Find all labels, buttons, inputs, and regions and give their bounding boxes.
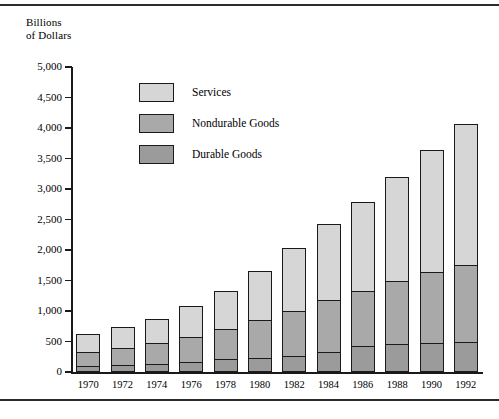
bar-stack[interactable]: [317, 224, 341, 372]
bar-stack[interactable]: [76, 334, 100, 372]
bar-stack[interactable]: [454, 124, 478, 372]
bar-segment-durable-goods[interactable]: [77, 366, 99, 371]
bar-stack[interactable]: [248, 271, 272, 372]
bar-segment-services[interactable]: [386, 178, 408, 281]
bar-segment-durable-goods[interactable]: [386, 344, 408, 371]
bar-segment-services[interactable]: [421, 151, 443, 272]
bar-segment-services[interactable]: [455, 125, 477, 265]
bar-stack[interactable]: [179, 306, 203, 372]
legend-label-durable: Durable Goods: [192, 148, 262, 160]
bar-segment-nondurable-goods[interactable]: [352, 291, 374, 346]
bar-segment-services[interactable]: [112, 328, 134, 347]
bar-segment-nondurable-goods[interactable]: [283, 311, 305, 357]
legend-swatch-nondurable: [139, 114, 174, 133]
legend-label-services: Services: [192, 86, 231, 98]
y-axis-tick-label: 2,500: [4, 213, 62, 225]
bar-segment-services[interactable]: [283, 249, 305, 311]
y-axis-tick-label: 4,500: [4, 91, 62, 103]
y-axis-tick-label: 5,000: [4, 60, 62, 72]
chart-legend: ServicesNondurable GoodsDurable Goods: [139, 79, 279, 172]
bar-segment-services[interactable]: [249, 272, 271, 319]
y-axis-tick-label: 3,000: [4, 182, 62, 194]
bar-segment-durable-goods[interactable]: [455, 342, 477, 371]
bar-segment-nondurable-goods[interactable]: [386, 281, 408, 345]
bar-segment-durable-goods[interactable]: [421, 343, 443, 371]
bar-stack[interactable]: [214, 291, 238, 372]
legend-swatch-services: [139, 83, 174, 102]
bar-segment-durable-goods[interactable]: [146, 364, 168, 371]
bar-segment-nondurable-goods[interactable]: [249, 320, 271, 359]
chart-plot-area: 5,0004,5004,0003,5003,0002,5002,0001,500…: [0, 0, 499, 419]
bar-segment-services[interactable]: [318, 225, 340, 300]
bar-segment-nondurable-goods[interactable]: [146, 343, 168, 364]
bar-segment-nondurable-goods[interactable]: [180, 337, 202, 362]
bar-segment-nondurable-goods[interactable]: [215, 329, 237, 359]
bar-stack[interactable]: [111, 327, 135, 372]
bar-segment-durable-goods[interactable]: [249, 358, 271, 371]
legend-item-nondurable[interactable]: Nondurable Goods: [139, 110, 279, 136]
bar-segment-durable-goods[interactable]: [215, 359, 237, 371]
bar-segment-nondurable-goods[interactable]: [455, 265, 477, 342]
bar-segment-services[interactable]: [215, 292, 237, 329]
bar-segment-services[interactable]: [352, 203, 374, 291]
bar-stack[interactable]: [420, 150, 444, 372]
y-axis-tick-label: 2,000: [4, 243, 62, 255]
bar-segment-services[interactable]: [180, 307, 202, 337]
y-axis-tick-label: 0: [4, 365, 62, 377]
legend-item-services[interactable]: Services: [139, 79, 279, 105]
bar-stack[interactable]: [145, 319, 169, 372]
bar-segment-nondurable-goods[interactable]: [77, 352, 99, 366]
legend-swatch-durable: [139, 145, 174, 164]
y-axis-tick-label: 500: [4, 335, 62, 347]
bar-segment-durable-goods[interactable]: [180, 362, 202, 371]
bar-segment-nondurable-goods[interactable]: [421, 272, 443, 343]
bar-segment-durable-goods[interactable]: [318, 352, 340, 371]
bar-segment-durable-goods[interactable]: [283, 356, 305, 371]
bar-stack[interactable]: [351, 202, 375, 372]
legend-label-nondurable: Nondurable Goods: [192, 117, 279, 129]
bar-segment-services[interactable]: [77, 335, 99, 351]
bar-segment-durable-goods[interactable]: [352, 346, 374, 371]
x-axis-label: 1992: [446, 379, 486, 390]
bar-stack[interactable]: [385, 177, 409, 373]
y-axis-tick-label: 1,000: [4, 304, 62, 316]
bar-segment-services[interactable]: [146, 320, 168, 343]
bar-segment-nondurable-goods[interactable]: [112, 348, 134, 365]
y-axis-tick-label: 1,500: [4, 274, 62, 286]
y-axis-tick-label: 4,000: [4, 121, 62, 133]
y-axis-tick-label: 3,500: [4, 152, 62, 164]
x-axis-line: [71, 372, 483, 374]
legend-item-durable[interactable]: Durable Goods: [139, 141, 279, 167]
bar-stack[interactable]: [282, 248, 306, 372]
bar-segment-nondurable-goods[interactable]: [318, 300, 340, 352]
bar-segment-durable-goods[interactable]: [112, 365, 134, 371]
